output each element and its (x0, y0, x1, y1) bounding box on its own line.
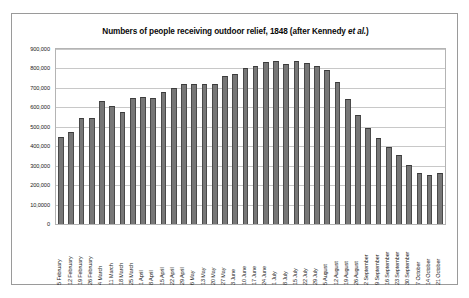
x-tick-label: 6 May (189, 271, 195, 285)
bar (58, 137, 64, 224)
bar (314, 66, 320, 224)
y-tick-label: 600,000 (30, 104, 50, 110)
x-tick-label: 15 July (292, 268, 298, 285)
bar (324, 70, 330, 224)
y-tick-label: 200,000 (30, 182, 50, 188)
y-tick-label: 900,000 (30, 46, 50, 52)
bar (417, 173, 423, 224)
x-tick-label: 22 April (169, 267, 175, 285)
bar (365, 128, 371, 224)
bar (212, 84, 218, 224)
x-tick-label: 29 July (312, 268, 318, 285)
bar (202, 84, 208, 224)
chart-figure: Numbers of people receiving outdoor reli… (11, 13, 458, 285)
x-tick-label: 20 May (210, 268, 216, 285)
chart-title: Numbers of people receiving outdoor reli… (12, 27, 459, 36)
x-tick-label: 5 February (56, 259, 62, 285)
x-tick-label: 24 June (261, 266, 267, 285)
x-tick-label: 9 September (374, 255, 380, 285)
bar (304, 63, 310, 224)
bar (345, 99, 351, 224)
bar (376, 138, 382, 224)
x-tick-label: 26 August (353, 261, 359, 285)
bar (140, 97, 146, 224)
x-tick-label: 26 February (87, 256, 93, 285)
chart-title-text: Numbers of people receiving outdoor reli… (102, 27, 348, 36)
bar (427, 175, 433, 224)
x-axis-tick-labels: 5 February12 February19 February26 Febru… (55, 227, 446, 285)
y-tick-label: 700,000 (30, 85, 50, 91)
bar (120, 112, 126, 224)
y-tick-label: 500,000 (30, 124, 50, 130)
x-tick-label: 22 July (302, 268, 308, 285)
bar (232, 74, 238, 224)
x-tick-label: 1 July (271, 271, 277, 285)
x-tick-label: 13 May (200, 268, 206, 285)
x-tick-label: 18 March (118, 263, 124, 285)
x-tick-label: 4 March (97, 266, 103, 285)
x-tick-label: 7 October (415, 262, 421, 285)
x-tick-label: 8 April (148, 270, 154, 285)
x-tick-label: 30 September (404, 252, 410, 285)
bar (191, 84, 197, 224)
bar (396, 155, 402, 224)
bar (243, 68, 249, 224)
x-tick-label: 15 April (159, 267, 165, 285)
x-tick-label: 27 May (220, 268, 226, 285)
bar (79, 118, 85, 224)
y-tick-label: 0 (47, 221, 50, 227)
bar (89, 118, 95, 224)
bar (150, 98, 156, 224)
x-tick-label: 12 August (333, 261, 339, 285)
x-tick-label: 14 October (425, 259, 431, 285)
bar (161, 92, 167, 224)
x-tick-label: 3 June (230, 269, 236, 285)
bar (335, 82, 341, 224)
bar (273, 61, 279, 224)
bar (222, 76, 228, 224)
y-tick-label: 400,000 (30, 143, 50, 149)
x-tick-label: 2 September (363, 255, 369, 285)
x-tick-label: 19 February (77, 256, 83, 285)
x-tick-label: 11 March (108, 263, 114, 285)
x-tick-label: 5 August (322, 264, 328, 285)
bar (171, 88, 177, 224)
bar (406, 165, 412, 224)
y-tick-label: 300,000 (30, 163, 50, 169)
bar-series (56, 49, 445, 224)
bar (294, 61, 300, 224)
bar (283, 64, 289, 224)
x-tick-label: 17 June (251, 266, 257, 285)
x-tick-label: 16 September (384, 252, 390, 285)
bar (253, 66, 259, 224)
x-tick-label: 23 September (394, 252, 400, 285)
bar (99, 101, 105, 224)
bar (437, 173, 443, 224)
chart-title-citation: et al. (348, 27, 366, 36)
x-tick-label: 10 June (241, 266, 247, 285)
x-tick-label: 21 October (435, 259, 441, 285)
x-tick-label: 25 March (128, 263, 134, 285)
y-tick-label: 800,000 (30, 65, 50, 71)
plot-area (55, 48, 446, 225)
bar (130, 98, 136, 224)
x-tick-label: 1 April (138, 270, 144, 285)
bar (263, 62, 269, 224)
bar (181, 84, 187, 224)
x-tick-label: 29 April (179, 267, 185, 285)
bar (68, 132, 74, 224)
bar (109, 106, 115, 224)
y-axis-tick-labels: 900,000800,000700,000600,000500,000400,0… (12, 48, 53, 225)
bar (386, 147, 392, 224)
x-tick-label: 19 August (343, 261, 349, 285)
bar (355, 115, 361, 224)
chart-title-tail: ) (366, 27, 369, 36)
y-tick-label: 10,0000 (30, 202, 50, 208)
x-tick-label: 12 February (67, 256, 73, 285)
x-tick-label: 8 July (282, 271, 288, 285)
